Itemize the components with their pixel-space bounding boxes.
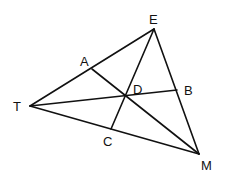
triangle-diagram: ETMABCD bbox=[0, 0, 227, 177]
point-label-b: B bbox=[184, 83, 193, 98]
point-label-e: E bbox=[149, 12, 158, 27]
point-label-m: M bbox=[201, 158, 212, 173]
segments-group bbox=[30, 29, 199, 154]
point-label-t: T bbox=[13, 99, 21, 114]
side-TM-line bbox=[30, 106, 199, 154]
point-label-d: D bbox=[133, 82, 142, 97]
point-label-c: C bbox=[103, 134, 112, 149]
point-label-a: A bbox=[80, 54, 89, 69]
